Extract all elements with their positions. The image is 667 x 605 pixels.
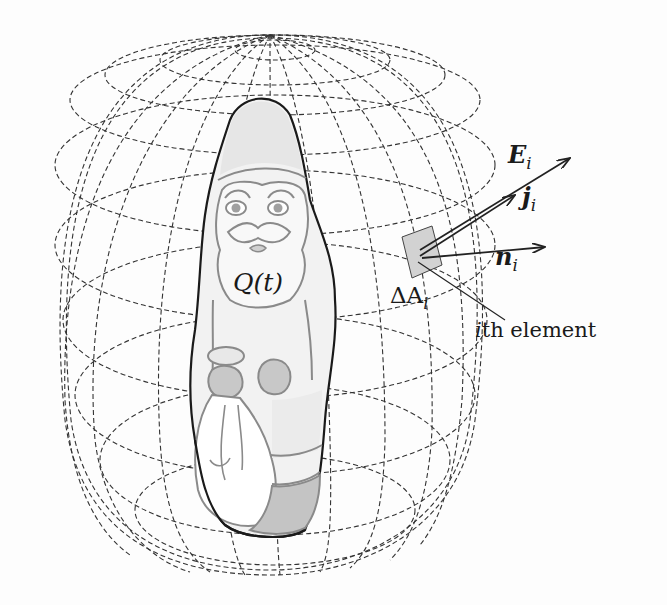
E-vector-label: Ei	[508, 140, 532, 173]
n-vector-arrow	[422, 247, 545, 258]
element-caption: ith element	[475, 318, 596, 342]
charge-label: Q(t)	[233, 268, 283, 297]
n-subscript: i	[512, 255, 517, 275]
area-element	[402, 226, 442, 278]
santa-figure	[190, 99, 335, 537]
n-vector-label: ni	[495, 242, 518, 275]
caption-text: th element	[482, 318, 597, 342]
area-subscript: i	[423, 294, 428, 313]
n-symbol: n	[495, 242, 512, 271]
area-element-label: ΔAi	[390, 282, 428, 313]
j-symbol: j	[522, 182, 531, 211]
j-vector-label: ji	[522, 182, 536, 215]
E-symbol: E	[508, 140, 526, 169]
diagram-canvas	[0, 0, 667, 605]
caption-index: i	[475, 318, 482, 342]
j-subscript: i	[531, 195, 536, 215]
element-leader-line	[418, 262, 505, 320]
delta-A-symbol: ΔA	[390, 282, 423, 308]
E-subscript: i	[526, 153, 531, 173]
E-vector-arrow	[420, 158, 570, 250]
diagram: Ei ji ni ΔAi ith element Q(t)	[0, 0, 667, 605]
